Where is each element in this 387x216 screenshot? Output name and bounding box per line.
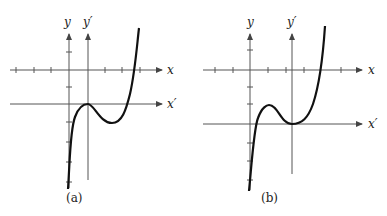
x-prime-axis-label: x′	[368, 117, 378, 131]
x-axis-label: x	[368, 63, 375, 77]
panel-a: y y′ x x′ (a)	[10, 15, 177, 205]
x-axis-label: x	[167, 63, 174, 77]
cubic-curve	[68, 28, 139, 189]
panel-caption: (a)	[66, 191, 83, 205]
x-prime-axis-label: x′	[167, 97, 177, 111]
panel-caption: (b)	[261, 191, 278, 205]
cubic-curve	[249, 26, 325, 191]
y-axis-label: y	[246, 15, 254, 29]
figure: y y′ x x′ (a) y y′ x x′ (b)	[0, 0, 387, 216]
panel-b: y y′ x x′ (b)	[203, 15, 378, 205]
y-prime-axis-label: y′	[286, 15, 297, 29]
y-prime-axis-label: y′	[82, 15, 93, 29]
y-axis-label: y	[63, 15, 71, 29]
